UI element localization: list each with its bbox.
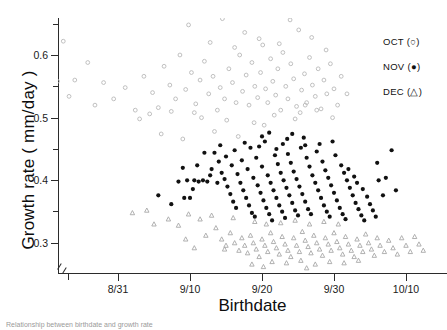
data-point xyxy=(241,89,245,93)
data-point xyxy=(292,169,296,173)
data-point xyxy=(361,187,365,191)
series-dec xyxy=(130,208,425,270)
data-point xyxy=(197,179,201,183)
data-point xyxy=(260,164,264,168)
data-point xyxy=(225,185,229,189)
data-point xyxy=(361,249,365,253)
data-point xyxy=(319,107,323,111)
data-point xyxy=(201,178,205,182)
data-point xyxy=(417,242,421,246)
data-point xyxy=(67,94,71,98)
data-point xyxy=(290,201,294,205)
data-point xyxy=(198,78,202,82)
data-point xyxy=(269,57,273,61)
data-point xyxy=(292,77,296,81)
data-point xyxy=(258,191,262,195)
data-point xyxy=(279,171,283,175)
data-point xyxy=(284,84,288,88)
x-tick-major xyxy=(118,274,119,281)
data-point xyxy=(313,94,317,98)
data-point xyxy=(237,248,241,252)
data-point xyxy=(304,266,308,270)
data-point xyxy=(352,174,356,178)
data-point xyxy=(330,139,334,143)
data-point xyxy=(236,135,240,139)
data-point xyxy=(285,137,289,141)
data-point xyxy=(233,46,237,50)
data-point xyxy=(336,222,340,226)
x-tick-major xyxy=(262,274,263,281)
data-point xyxy=(192,178,196,182)
data-point xyxy=(169,202,173,206)
data-point xyxy=(280,210,284,214)
data-point xyxy=(274,196,278,200)
data-point xyxy=(273,153,277,157)
data-point xyxy=(320,159,324,163)
data-point xyxy=(238,53,242,57)
data-point xyxy=(336,103,340,107)
data-point xyxy=(223,97,227,101)
data-point xyxy=(303,200,307,204)
data-point xyxy=(221,18,225,21)
data-point xyxy=(194,102,198,106)
data-point xyxy=(279,108,283,112)
y-tick-label-04: 0.4 xyxy=(14,174,48,186)
data-point xyxy=(195,163,199,167)
data-point xyxy=(335,198,339,202)
data-point xyxy=(264,206,268,210)
data-point xyxy=(315,241,319,245)
data-point xyxy=(296,213,300,217)
data-point xyxy=(375,161,379,165)
data-point xyxy=(257,144,261,148)
data-point xyxy=(331,116,335,120)
data-point xyxy=(306,207,310,211)
data-point xyxy=(243,243,247,247)
data-point xyxy=(289,161,293,165)
data-point xyxy=(208,173,212,177)
data-point xyxy=(313,181,317,185)
data-point xyxy=(174,97,178,101)
data-point xyxy=(176,223,180,227)
data-point xyxy=(358,243,362,247)
data-point xyxy=(266,249,270,253)
data-point xyxy=(261,198,265,202)
data-point xyxy=(305,156,309,160)
data-point xyxy=(378,243,382,247)
data-point xyxy=(244,196,248,200)
data-point xyxy=(319,196,323,200)
data-point xyxy=(297,185,301,189)
data-point xyxy=(375,236,379,240)
data-point xyxy=(138,117,142,121)
data-point xyxy=(300,229,304,233)
data-point xyxy=(317,247,321,251)
data-point xyxy=(212,151,216,155)
data-point xyxy=(291,236,295,240)
data-point xyxy=(311,83,315,87)
data-point xyxy=(210,167,214,171)
data-point xyxy=(169,110,173,114)
data-point xyxy=(354,201,358,205)
x-axis-title: Birthdate xyxy=(58,296,447,316)
data-point xyxy=(349,248,353,252)
data-point xyxy=(395,252,399,256)
data-point xyxy=(102,81,106,85)
data-point xyxy=(267,131,271,135)
data-point xyxy=(277,252,281,256)
data-point xyxy=(250,211,254,215)
data-point xyxy=(183,237,187,241)
data-point xyxy=(348,186,352,190)
data-point xyxy=(263,243,267,247)
data-point xyxy=(257,254,261,258)
data-point xyxy=(313,262,317,266)
data-point xyxy=(281,142,285,146)
data-point xyxy=(284,186,288,190)
data-point xyxy=(387,238,391,242)
data-point xyxy=(318,142,322,146)
data-point xyxy=(186,212,190,216)
data-point xyxy=(191,187,195,191)
data-point xyxy=(384,176,388,180)
data-point xyxy=(300,88,304,92)
data-point xyxy=(209,213,213,217)
data-point xyxy=(203,59,207,63)
data-point xyxy=(266,101,270,105)
